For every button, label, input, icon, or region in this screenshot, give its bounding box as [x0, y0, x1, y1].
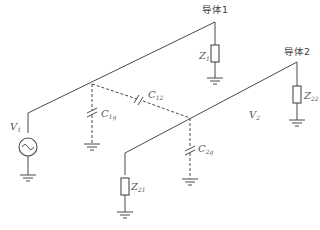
conductor-1-wire — [28, 22, 215, 133]
c12-lead-a — [92, 84, 137, 99]
conductor-2-wire — [125, 62, 297, 175]
v2-label: V2 — [249, 109, 260, 121]
c1g-label: C1g — [101, 108, 116, 121]
c12-label: C12 — [148, 89, 163, 101]
ground-icon — [117, 212, 133, 218]
capacitor-c12 — [134, 95, 143, 105]
z21-label: Z21 — [130, 181, 146, 193]
impedance-z21 — [121, 178, 129, 195]
c12-lead-b — [143, 101, 190, 118]
v1-label: V1 — [10, 121, 21, 133]
ground-icon — [289, 120, 305, 126]
ground-icon — [207, 78, 223, 84]
ground-icon — [20, 175, 36, 181]
conductor-1-label: 导体1 — [202, 4, 228, 15]
ground-icon — [84, 144, 100, 150]
conductor-2-label: 导体2 — [284, 46, 310, 57]
z22-label: Z22 — [303, 90, 319, 102]
ground-icon — [182, 179, 198, 185]
impedance-z1 — [211, 45, 219, 62]
z1-label: Z1 — [198, 50, 210, 62]
impedance-z22 — [293, 86, 301, 103]
circuit-diagram: 导体1 导体2 Z1 Z22 Z21 C12 C1g C2g V1 V2 — [0, 0, 320, 230]
c2g-label: C2g — [198, 143, 213, 156]
